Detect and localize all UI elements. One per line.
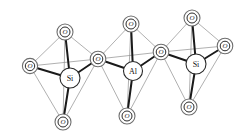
oxygen-atom: O [123, 16, 139, 32]
oxygen-atom: O [22, 58, 37, 73]
oxygen-atom: O [55, 114, 71, 130]
oxygen-atom: O [57, 24, 73, 40]
cation-atom-si: Si [60, 68, 80, 88]
oxygen-label: O [60, 118, 65, 126]
oxygen-label: O [186, 103, 191, 111]
oxygen-atom: O [181, 99, 197, 115]
oxygen-label: O [158, 48, 163, 56]
atom-layer: OOOOOOOOOOSiAlSi [22, 10, 232, 130]
oxygen-atom: O [217, 38, 233, 54]
cation-label: Al [129, 67, 138, 76]
oxygen-atom: O [119, 108, 135, 124]
oxygen-label: O [189, 14, 194, 22]
cation-atom-al: Al [124, 62, 143, 81]
oxygen-label: O [62, 28, 67, 36]
oxygen-label: O [124, 112, 129, 120]
structure-canvas: OOOOOOOOOOSiAlSi [0, 0, 248, 138]
cation-atom-si: Si [186, 54, 206, 74]
cation-label: Si [193, 60, 200, 69]
oxygen-atom: O [90, 51, 106, 67]
oxygen-atom: O [184, 10, 200, 26]
oxygen-label: O [27, 62, 32, 70]
cation-label: Si [67, 74, 74, 83]
oxygen-label: O [128, 20, 133, 28]
oxygen-label: O [95, 55, 100, 63]
oxygen-label: O [222, 42, 227, 50]
molecular-structure-diagram: OOOOOOOOOOSiAlSi [0, 0, 248, 138]
oxygen-atom: O [153, 44, 169, 60]
